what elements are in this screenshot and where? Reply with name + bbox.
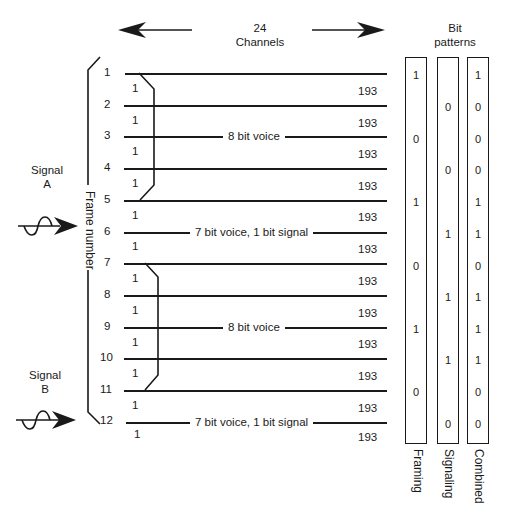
- frame-start-bit: 1: [132, 145, 138, 158]
- signal-a-label-2: A: [22, 178, 72, 191]
- signaling-bit: 0: [438, 418, 458, 430]
- frame-number: 9: [104, 320, 110, 333]
- combined-bit: 1: [468, 291, 488, 303]
- combined-bit: 0: [468, 133, 488, 145]
- frame-number: 8: [104, 288, 110, 301]
- frame-annotation-8bit-voice: 8 bit voice: [223, 321, 285, 334]
- bit-patterns-label-1: Bit: [415, 22, 495, 35]
- frame-start-bit: 1: [132, 367, 138, 380]
- combined-bit: 0: [468, 418, 488, 430]
- frame-number-axis-label: Frame number: [83, 191, 97, 270]
- frame-number: 1: [104, 66, 110, 79]
- signaling-bit: 0: [438, 101, 458, 113]
- frame-bracket-bottom: [88, 270, 100, 424]
- frame-line: [124, 200, 387, 202]
- frame-number: 2: [104, 98, 110, 111]
- frame-end-bit: 193: [358, 307, 377, 320]
- frame-start-bit: 1: [132, 336, 138, 349]
- combined-bit: 1: [468, 228, 488, 240]
- frame-number: 5: [104, 193, 110, 206]
- frame-end-bit: 193: [358, 338, 377, 351]
- frame-end-bit: 193: [358, 243, 377, 256]
- framing-bit: 1: [406, 196, 426, 208]
- frame-start-bit: 1: [132, 304, 138, 317]
- combined-bit: 0: [468, 260, 488, 272]
- framing-bit: 1: [406, 69, 426, 81]
- framing-bit: 1: [406, 323, 426, 335]
- signaling-bit: 1: [438, 291, 458, 303]
- frame-number: 7: [104, 256, 110, 269]
- frame-line: [124, 295, 387, 297]
- frame-end-bit: 193: [358, 431, 377, 444]
- frame-start-bit: 1: [132, 209, 138, 222]
- frame-annotation-7bit-voice: 7 bit voice, 1 bit signal: [190, 226, 313, 239]
- frame-end-bit: 193: [358, 211, 377, 224]
- frame-number: 3: [104, 129, 110, 142]
- frame-end-bit: 193: [358, 402, 377, 415]
- frame-line: [124, 390, 387, 392]
- signal-b-label-2: B: [20, 383, 70, 396]
- frame-bracket-top: [88, 57, 100, 185]
- signal-a-label-1: Signal: [22, 164, 72, 177]
- combined-bit: 0: [468, 164, 488, 176]
- frame-end-bit: 193: [358, 117, 377, 130]
- frame-start-bit: 1: [134, 428, 140, 441]
- frame-line: [124, 105, 387, 107]
- frame-line: [125, 73, 387, 75]
- signaling-column-label: Signaling: [442, 449, 456, 498]
- combined-bit: 1: [468, 354, 488, 366]
- diagram-strokes: [0, 0, 508, 517]
- bit-patterns-label-2: patterns: [415, 36, 495, 49]
- frame-line: [124, 358, 387, 360]
- frame-end-bit: 193: [358, 180, 377, 193]
- combined-bit: 1: [468, 323, 488, 335]
- frame-line: [124, 263, 387, 265]
- combined-bit: 1: [468, 196, 488, 208]
- frame-start-bit: 1: [132, 82, 138, 95]
- combined-bit: 1: [468, 69, 488, 81]
- framing-column-label: Framing: [411, 449, 425, 493]
- frame-number: 6: [104, 225, 110, 238]
- frame-end-bit: 193: [358, 370, 377, 383]
- frame-start-bit: 1: [132, 177, 138, 190]
- frame-number: 11: [100, 383, 112, 396]
- frame-end-bit: 193: [358, 85, 377, 98]
- combined-column-label: Combined: [472, 449, 486, 504]
- frame-end-bit: 193: [358, 148, 377, 161]
- frame-start-bit: 1: [132, 114, 138, 127]
- frame-start-bit: 1: [132, 399, 138, 412]
- channels-count: 24: [225, 22, 295, 35]
- frame-end-bit: 193: [358, 275, 377, 288]
- combined-bit: 0: [468, 386, 488, 398]
- signaling-bit: 0: [438, 164, 458, 176]
- framing-bit: 0: [406, 386, 426, 398]
- signaling-bit: 1: [438, 228, 458, 240]
- frame-number: 12: [100, 414, 113, 427]
- channels-label: Channels: [225, 36, 295, 49]
- frame-start-bit: 1: [132, 272, 138, 285]
- signaling-bit: 1: [438, 354, 458, 366]
- combined-bit: 0: [468, 101, 488, 113]
- framing-bit: 0: [406, 260, 426, 272]
- framing-bit: 0: [406, 133, 426, 145]
- frame-annotation-7bit-voice: 7 bit voice, 1 bit signal: [190, 416, 313, 429]
- frame-number: 10: [100, 351, 113, 364]
- frame-number: 4: [104, 161, 110, 174]
- frame-annotation-8bit-voice: 8 bit voice: [223, 130, 285, 143]
- signal-b-label-1: Signal: [20, 369, 70, 382]
- frame-line: [124, 168, 387, 170]
- frame-start-bit: 1: [132, 240, 138, 253]
- signaling-bit-column: [437, 57, 459, 444]
